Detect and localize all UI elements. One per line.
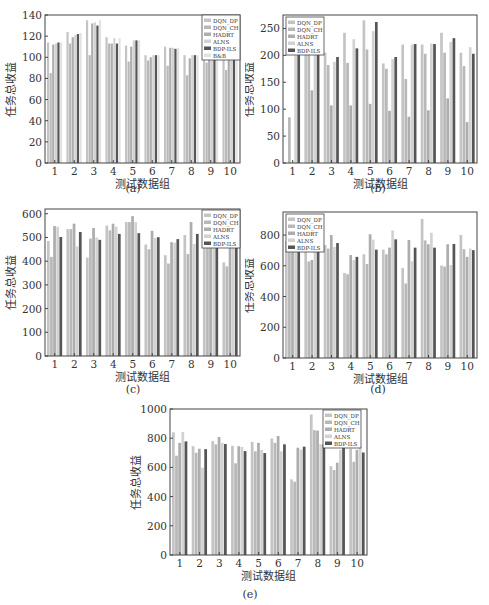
y-tick-label: 400 — [147, 491, 167, 503]
bar — [427, 110, 430, 163]
x-tick-label: 1 — [289, 360, 296, 372]
bar — [391, 59, 394, 163]
x-tick-label: 4 — [348, 360, 355, 372]
legend-label: BDP-ILS — [297, 245, 321, 251]
bar — [89, 55, 91, 163]
bar — [144, 245, 147, 356]
y-tick-label: 500 — [22, 231, 42, 243]
bar — [352, 462, 355, 555]
bar — [157, 237, 160, 356]
x-tick-label: 10 — [350, 557, 363, 569]
bar — [96, 26, 98, 163]
bar — [225, 70, 227, 163]
x-tick-label: 5 — [255, 557, 262, 569]
chart-a: 02040608010012014012345678910测试数据组任务总收益D… — [0, 0, 245, 200]
bar — [336, 57, 339, 163]
y-tick-label: 100 — [22, 51, 42, 63]
legend-swatch — [288, 21, 295, 25]
x-tick-label: 2 — [71, 358, 78, 370]
bar — [155, 55, 157, 163]
x-tick-label: 8 — [425, 360, 432, 372]
x-tick-label: 3 — [328, 165, 335, 177]
bar — [147, 60, 149, 163]
x-tick-label: 3 — [328, 360, 335, 372]
bar — [363, 254, 366, 358]
bar — [440, 33, 443, 163]
legend-label: ALNS — [212, 39, 229, 45]
bar — [372, 240, 375, 358]
bar — [411, 261, 414, 358]
bar — [130, 47, 132, 163]
bar — [176, 239, 179, 356]
legend-swatch — [288, 225, 295, 229]
bar — [52, 45, 54, 163]
x-tick-label: 10 — [461, 360, 474, 372]
bar — [208, 47, 210, 163]
bar — [314, 47, 317, 163]
bar — [375, 250, 378, 358]
bar — [382, 63, 385, 163]
legend-swatch — [288, 239, 295, 243]
bar — [349, 449, 352, 555]
y-tick-label: 800 — [147, 432, 167, 444]
legend-swatch — [288, 28, 295, 32]
chart-c-svg: 010020030040050060012345678910测试数据组任务总收益… — [0, 200, 245, 400]
bar — [194, 55, 196, 163]
bar — [346, 63, 349, 163]
bar — [105, 226, 108, 356]
bar — [150, 57, 152, 163]
x-tick-label: 5 — [129, 165, 136, 177]
legend-label: ALNS — [296, 41, 313, 47]
bar — [352, 39, 355, 163]
legend-swatch — [288, 232, 295, 236]
bar — [449, 265, 452, 358]
bar — [133, 40, 135, 163]
legend-label: BDP-ILS — [334, 441, 358, 447]
bar — [288, 247, 291, 358]
legend-swatch — [204, 47, 211, 51]
bar — [330, 466, 333, 555]
y-tick-label: 0 — [160, 549, 167, 561]
bar — [362, 453, 365, 555]
x-tick-label: 7 — [168, 358, 175, 370]
bar — [125, 222, 128, 356]
bar — [193, 244, 196, 356]
bar — [274, 443, 277, 555]
y-tick-label: 600 — [22, 208, 42, 220]
bar — [241, 447, 244, 555]
bar — [294, 55, 297, 163]
y-tick-label: 40 — [29, 115, 42, 127]
x-tick-label: 8 — [425, 165, 432, 177]
y-tick-label: 100 — [22, 326, 42, 338]
x-tick-label: 4 — [110, 358, 117, 370]
bar — [385, 254, 388, 358]
bar — [183, 55, 185, 163]
x-tick-label: 6 — [386, 165, 393, 177]
bar — [191, 55, 193, 163]
bar — [109, 230, 112, 356]
bar — [50, 257, 53, 356]
x-tick-label: 5 — [129, 358, 136, 370]
x-tick-label: 1 — [177, 557, 184, 569]
y-tick-label: 1000 — [140, 403, 167, 415]
bar — [183, 235, 186, 356]
x-tick-label: 9 — [207, 358, 214, 370]
bar — [79, 232, 82, 356]
bar — [388, 111, 391, 163]
bar — [311, 90, 314, 163]
legend-label: DQN_DP — [297, 217, 322, 224]
bar — [324, 53, 327, 163]
bar — [300, 450, 303, 555]
legend-swatch — [325, 428, 332, 432]
legend-swatch — [325, 414, 332, 418]
bar — [186, 75, 188, 163]
legend: DQN_DPDQN_CHHADRTALNSBDP-ILS — [323, 410, 361, 448]
bar — [91, 23, 93, 163]
bar — [401, 45, 404, 163]
bar — [69, 44, 71, 163]
bar — [86, 20, 88, 163]
bar — [421, 219, 424, 358]
bar — [229, 247, 232, 356]
bar — [333, 62, 336, 163]
y-tick-label: 600 — [260, 260, 280, 272]
